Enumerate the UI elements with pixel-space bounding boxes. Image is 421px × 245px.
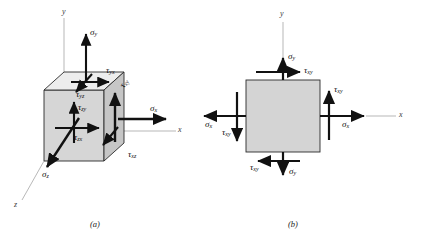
label-tau-yz-a: τyz [76,90,84,99]
caption-panel-a: (a) [90,220,100,229]
label-sigma-y-top-b: σy [288,52,295,61]
axis-label-x-b: x [399,111,403,119]
label-tau-zy-a: τzy [78,103,86,112]
plane-stress-square [246,80,320,152]
label-sigma-x-a: σx [150,104,157,113]
label-tau-xz-a: τxz [128,150,136,159]
label-tau-xy-top-b: τxy [304,66,313,75]
stress-element-figure: y x z σy τyx τyz τzy τzx σz τxy τxz σx (… [0,0,421,245]
axis-label-z-a: z [14,201,17,209]
label-sigma-y-a: σy [90,28,97,37]
axis-label-x-a: x [178,126,182,134]
label-sigma-x-right-b: σx [342,120,349,129]
label-tau-xy-bottom-b: τxy [250,163,259,172]
panel-b-right-arrows [320,91,364,140]
caption-panel-b: (b) [288,220,298,229]
axis-label-y-b: y [280,10,284,18]
label-sigma-x-left-b: σx [205,120,212,129]
cube-body [44,72,124,161]
label-sigma-z-a: σz [42,170,49,179]
axis-label-y-a: y [62,8,66,16]
label-tau-yx-a: τyx [106,66,115,75]
z-axis-line-a [22,161,44,200]
label-tau-zx-a: τzx [74,133,82,142]
label-sigma-y-bottom-b: σy [289,167,296,176]
label-tau-xy-right-b: τxy [334,85,343,94]
label-tau-xy-left-b: τxy [222,128,231,137]
